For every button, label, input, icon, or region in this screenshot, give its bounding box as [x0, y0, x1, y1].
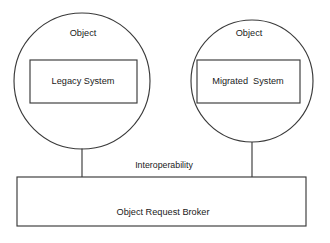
object-request-broker-label: Object Request Broker — [117, 207, 210, 217]
left-object-label: Object — [70, 28, 97, 38]
object-request-broker-box — [17, 177, 306, 226]
interoperability-label: Interoperability — [135, 160, 193, 170]
right-object-label: Object — [236, 28, 263, 38]
diagram-root: Object Object Legacy System Migrated Sys… — [0, 0, 330, 243]
migrated-system-label: Migrated System — [212, 76, 284, 86]
legacy-system-label: Legacy System — [52, 76, 115, 86]
diagram-canvas: Object Object Legacy System Migrated Sys… — [0, 0, 330, 243]
